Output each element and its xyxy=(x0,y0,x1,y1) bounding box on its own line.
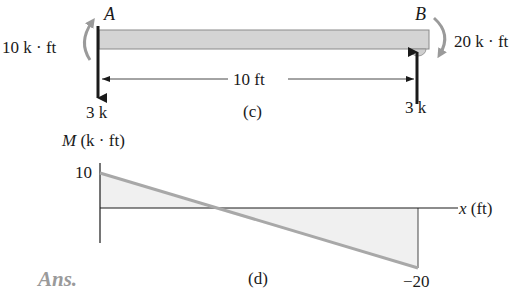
x-axis-unit: (ft) xyxy=(471,199,493,218)
point-b-label: B xyxy=(415,5,426,23)
moment-a-label: 10 k · ft xyxy=(2,39,56,56)
diagram-canvas xyxy=(0,0,519,307)
force-b-label: 3 k xyxy=(405,99,426,116)
y-axis-unit: (k · ft) xyxy=(80,131,124,150)
caption-d: (d) xyxy=(248,270,268,287)
x-axis-symbol: x xyxy=(459,199,467,218)
point-a-label: A xyxy=(104,5,115,23)
span-label: 10 ft xyxy=(233,71,265,88)
moment-diagram xyxy=(100,163,458,268)
x-axis-label: x (ft) xyxy=(459,200,493,217)
moment-b-label: 20 k · ft xyxy=(454,33,508,50)
caption-c: (c) xyxy=(243,103,262,120)
value-start-label: 10 xyxy=(75,164,92,181)
answer-tag: Ans. xyxy=(38,269,77,290)
moment-a-icon xyxy=(84,22,92,60)
value-end-label: −20 xyxy=(403,273,430,290)
y-axis-label: M (k · ft) xyxy=(62,132,125,149)
y-axis-symbol: M xyxy=(62,131,76,150)
moment-b-icon xyxy=(434,18,445,54)
beam xyxy=(99,30,429,49)
force-a-label: 3 k xyxy=(86,104,107,121)
